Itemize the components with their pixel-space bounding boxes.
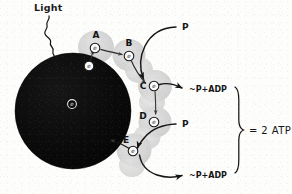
- phosphate-label-top: P: [182, 22, 189, 32]
- summary-label: = 2 ATP: [249, 125, 291, 136]
- reaction-center-circle: [15, 53, 131, 169]
- summary-brace: [235, 87, 244, 173]
- released-electron: e: [84, 61, 94, 71]
- arrow-C-to-D: [155, 91, 156, 114]
- diagram-canvas: e Light e A e B e C: [0, 0, 292, 194]
- diagram-svg: e Light e A e B e C: [0, 0, 292, 194]
- reaction-center-electron-label: e: [70, 101, 74, 107]
- carrier-electron-label-A: e: [93, 45, 97, 51]
- released-electron-label: e: [87, 63, 91, 69]
- light-label: Light: [34, 2, 63, 13]
- carrier-electron-C: e: [149, 81, 159, 91]
- carrier-electron-label-E: e: [131, 148, 135, 154]
- reaction-center-electron: e: [68, 100, 77, 109]
- carrier-electron-label-D: e: [152, 119, 156, 125]
- atp-output-label-bottom: ~P+ADP: [189, 171, 227, 180]
- carrier-label-B: B: [126, 38, 133, 48]
- carrier-electron-label-C: e: [152, 83, 156, 89]
- carrier-electron-E: e: [128, 146, 138, 156]
- carrier-label-A: A: [93, 30, 100, 40]
- atp-output-label-top: ~P+ADP: [189, 85, 227, 94]
- carrier-label-E: E: [123, 135, 129, 145]
- carrier-electron-B: e: [124, 51, 134, 61]
- carrier-electron-A: e: [90, 43, 100, 53]
- carrier-electron-D: e: [149, 117, 159, 127]
- carrier-label-C: C: [140, 81, 147, 91]
- carrier-electron-label-B: e: [127, 53, 131, 59]
- carrier-blob-E2: [119, 153, 145, 177]
- carrier-label-D: D: [139, 111, 146, 121]
- phosphate-label-bottom: P: [182, 119, 189, 129]
